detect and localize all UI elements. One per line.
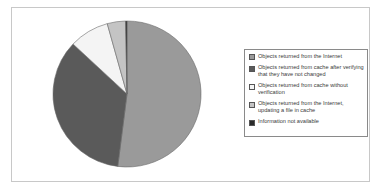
legend-label: Objects returned from the Internet, upda… xyxy=(258,100,364,114)
legend-item-cache-verified: Objects returned from cache after verify… xyxy=(249,64,364,78)
legend-swatch-icon xyxy=(249,84,255,90)
legend-swatch-icon xyxy=(249,102,255,108)
legend-label: Objects returned from cache after verify… xyxy=(258,64,364,78)
legend-swatch-icon xyxy=(249,66,255,72)
legend-swatch-icon xyxy=(249,120,255,126)
legend-label: Objects returned from cache without veri… xyxy=(258,82,364,96)
legend-item-internet-updating-cache: Objects returned from the Internet, upda… xyxy=(249,100,364,114)
legend-label: Objects returned from the Internet xyxy=(258,53,364,60)
legend-item-not-available: Information not available xyxy=(249,118,364,125)
pie-slices xyxy=(53,21,201,167)
legend: Objects returned from the Internet Objec… xyxy=(244,49,368,137)
legend-item-cache-unverified: Objects returned from cache without veri… xyxy=(249,82,364,96)
legend-swatch-icon xyxy=(249,54,255,60)
pie-chart xyxy=(52,20,202,168)
legend-item-internet: Objects returned from the Internet xyxy=(249,53,364,60)
pie-slice xyxy=(118,21,201,167)
legend-label: Information not available xyxy=(258,118,364,125)
